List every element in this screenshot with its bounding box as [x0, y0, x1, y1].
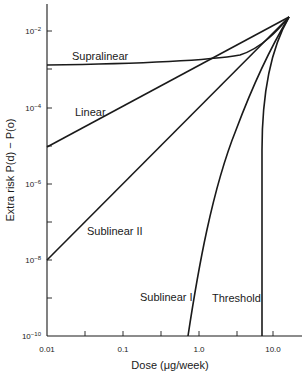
- y-tick-label: 10−2: [25, 26, 41, 36]
- sublinear-i-label: Sublinear I: [140, 291, 193, 303]
- sublinear-ii-label: Sublinear II: [87, 225, 143, 237]
- x-tick-label: 10.0: [265, 345, 281, 354]
- y-tick-labels: 10−2 10−4 10−6 10−8 10−10: [22, 26, 42, 341]
- x-tick-label: 0.01: [39, 345, 55, 354]
- supralinear-label: Supralinear: [72, 50, 129, 62]
- x-tick-label: 0.1: [117, 345, 129, 354]
- dose-response-chart: 10−2 10−4 10−6 10−8 10−10 0.01 0.1 1.0 1…: [0, 0, 305, 375]
- y-tick-label: 10−6: [25, 179, 41, 189]
- threshold-label: Threshold: [212, 292, 261, 304]
- y-tick-label: 10−8: [25, 255, 41, 265]
- y-axis-title: Extra risk P(d) − P(o): [4, 119, 16, 222]
- sublinear-i-curve: [188, 17, 289, 336]
- curves: [47, 17, 289, 336]
- threshold-curve: [262, 17, 289, 336]
- x-tick-labels: 0.01 0.1 1.0 10.0: [39, 345, 281, 354]
- x-tick-label: 1.0: [193, 345, 205, 354]
- curve-labels: Supralinear Linear Sublinear II Sublinea…: [72, 50, 261, 304]
- y-tick-label: 10−4: [25, 103, 41, 113]
- x-axis-title: Dose (μg/week): [131, 359, 208, 371]
- x-ticks: [85, 331, 273, 336]
- linear-curve: [47, 17, 289, 147]
- linear-label: Linear: [75, 106, 106, 118]
- y-tick-label: 10−10: [22, 331, 42, 341]
